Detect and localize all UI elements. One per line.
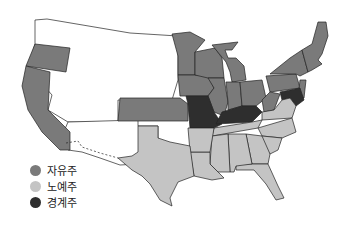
border-state-swatch-icon	[30, 197, 41, 208]
legend-item-slave: 노예주	[30, 178, 77, 194]
legend-item-border: 경계주	[30, 194, 77, 210]
state-newyork	[270, 50, 308, 76]
legend-label-slave: 노예주	[47, 178, 77, 194]
slave-state-swatch-icon	[30, 181, 41, 192]
legend-label-border: 경계주	[47, 194, 77, 210]
state-north-carolina	[258, 118, 296, 138]
legend-label-free: 자유주	[47, 162, 77, 178]
state-kansas	[118, 98, 188, 121]
free-state-swatch-icon	[30, 165, 41, 176]
state-new-england	[302, 22, 328, 72]
map-legend: 자유주 노예주 경계주	[30, 162, 77, 210]
legend-item-free: 자유주	[30, 162, 77, 178]
state-indiana	[226, 82, 242, 110]
state-mississippi	[210, 134, 230, 172]
state-arkansas	[188, 128, 214, 152]
state-florida	[236, 164, 284, 200]
